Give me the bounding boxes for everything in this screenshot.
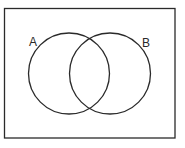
venn-diagram: A B [0,0,185,148]
universe-rectangle [5,9,176,139]
set-a-label: A [29,35,37,49]
set-b-label: B [142,36,150,50]
